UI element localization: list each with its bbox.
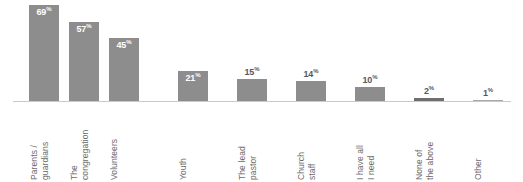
category-label-4-text: The lead pastor [237, 106, 267, 180]
bar-value-8: 1% [473, 87, 503, 98]
category-label-8-text: Other [473, 106, 503, 180]
category-label-5: Church staff [296, 106, 326, 180]
bar-group-1[interactable]: 57% The congregation [69, 0, 109, 102]
bar-5[interactable] [296, 81, 326, 101]
percent-sign-3: % [195, 72, 200, 78]
category-label-7-text: None of the above [414, 106, 444, 180]
category-label-2: Volunteers [109, 106, 139, 180]
percent-sign-5: % [313, 68, 318, 74]
category-label-3-text: Youth [178, 106, 208, 180]
bar-group-4[interactable]: 15% The lead pastor [237, 0, 277, 102]
category-label-6-text: I have all I need [355, 106, 385, 180]
percent-sign-6: % [372, 74, 377, 80]
percent-sign-7: % [429, 85, 434, 91]
bar-value-5: 14% [296, 68, 326, 79]
x-axis-line [13, 101, 511, 102]
bar-value-6: 10% [355, 74, 385, 85]
percent-sign-8: % [488, 87, 493, 93]
category-label-2-text: Volunteers [109, 106, 139, 180]
plot-area: 69% Parents / guardians 57% The congrega… [0, 0, 523, 102]
category-label-3: Youth [178, 106, 208, 180]
bar-value-1: 57% [69, 23, 99, 34]
category-label-0: Parents / guardians [29, 106, 59, 180]
category-label-8: Other [473, 106, 503, 180]
bar-0[interactable] [29, 5, 59, 101]
category-label-1: The congregation [69, 106, 99, 180]
category-label-1-text: The congregation [69, 106, 99, 180]
category-label-5-text: Church staff [296, 106, 326, 180]
bar-group-7[interactable]: 2% None of the above [414, 0, 454, 102]
percent-sign-2: % [126, 39, 131, 45]
bar-group-2[interactable]: 45% Volunteers [109, 0, 149, 102]
bar-value-4: 15% [237, 66, 267, 77]
percent-sign-4: % [254, 66, 259, 72]
percent-sign-0: % [46, 6, 51, 12]
bar-6[interactable] [355, 87, 385, 101]
category-label-6: I have all I need [355, 106, 385, 180]
category-label-7: None of the above [414, 106, 444, 180]
bar-value-2: 45% [109, 39, 139, 50]
bar-value-3: 21% [178, 72, 208, 83]
category-label-4: The lead pastor [237, 106, 267, 180]
bar-group-5[interactable]: 14% Church staff [296, 0, 336, 102]
bar-value-0: 69% [29, 6, 59, 17]
bar-chart: 69% Parents / guardians 57% The congrega… [0, 0, 523, 182]
bar-4[interactable] [237, 79, 267, 101]
bar-value-7: 2% [414, 85, 444, 96]
bar-group-8[interactable]: 1% Other [473, 0, 513, 102]
category-label-0-text: Parents / guardians [29, 106, 59, 180]
bar-group-0[interactable]: 69% Parents / guardians [29, 0, 69, 102]
percent-sign-1: % [86, 23, 91, 29]
bar-group-3[interactable]: 21% Youth [178, 0, 218, 102]
bar-group-6[interactable]: 10% I have all I need [355, 0, 395, 102]
